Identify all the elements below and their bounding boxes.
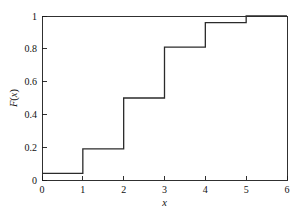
x-axis-title: x	[161, 197, 167, 208]
figure-background	[0, 0, 303, 222]
x-tick-label: 4	[203, 184, 208, 195]
y-tick-label: 0.2	[25, 142, 38, 153]
y-tick-label: 0	[32, 175, 37, 186]
x-tick-label: 3	[162, 184, 167, 195]
y-axis-title: F(x)	[8, 88, 20, 108]
step-chart: 0 0.2 0.4 0.6 0.8 1 0 1 2 3 4 5 6 x F(x)	[0, 0, 303, 222]
y-tick-label: 1	[32, 11, 37, 22]
y-tick-label: 0.4	[25, 109, 38, 120]
x-tick-label: 2	[121, 184, 126, 195]
x-tick-label: 5	[244, 184, 249, 195]
y-tick-label: 0.8	[25, 43, 38, 54]
x-tick-label: 0	[40, 184, 45, 195]
y-tick-label: 0.6	[25, 76, 38, 87]
x-tick-label: 6	[285, 184, 290, 195]
svg-text:F(x): F(x)	[8, 88, 20, 108]
x-tick-label: 1	[80, 184, 85, 195]
figure-container: 0 0.2 0.4 0.6 0.8 1 0 1 2 3 4 5 6 x F(x)	[0, 0, 303, 222]
y-axis-title-close: )	[8, 88, 20, 92]
